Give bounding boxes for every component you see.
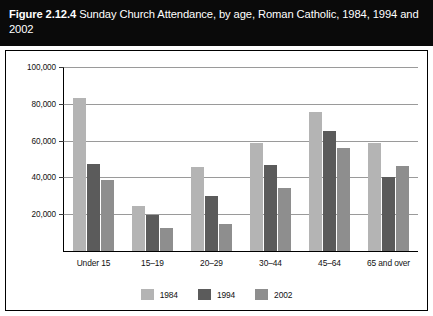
bar-1994-20–29 — [205, 196, 218, 251]
legend-label-1984: 1984 — [160, 290, 178, 300]
y-axis-label: 100,000 — [27, 63, 56, 72]
x-axis-label: 65 and over — [329, 258, 433, 268]
figure-container: Figure 2.12.4 Sunday Church Attendance, … — [0, 0, 433, 316]
bar-2002-15–19 — [160, 228, 173, 251]
y-axis-label: 20,000 — [32, 210, 56, 219]
legend-item-1984: 1984 — [141, 289, 178, 300]
bar-1984-45–64 — [309, 112, 322, 251]
bar-1984-20–29 — [191, 167, 204, 251]
legend-swatch-2002 — [255, 289, 268, 300]
bar-1984-65-and-over — [368, 143, 381, 251]
bar-1994-45–64 — [323, 131, 336, 251]
bar-2002-30–44 — [278, 188, 291, 251]
bar-1994-65-and-over — [382, 177, 395, 251]
bar-group: 65 and over — [359, 67, 418, 251]
legend-swatch-1994 — [198, 289, 211, 300]
bar-group: Under 15 — [64, 67, 123, 251]
figure-title: Figure 2.12.4 Sunday Church Attendance, … — [9, 7, 424, 36]
figure-title-bar: Figure 2.12.4 Sunday Church Attendance, … — [0, 0, 433, 46]
bar-1994-15–19 — [146, 215, 159, 251]
bar-1984-30–44 — [250, 143, 263, 251]
figure-number: Figure 2.12.4 — [9, 8, 76, 20]
y-axis-label: 40,000 — [32, 173, 56, 182]
bar-1994-30–44 — [264, 165, 277, 251]
legend-swatch-1984 — [141, 289, 154, 300]
bar-group: 15–19 — [123, 67, 182, 251]
bar-2002-under-15 — [101, 180, 114, 251]
chart-frame: 20,00040,00060,00080,000100,000 Under 15… — [5, 50, 428, 311]
bar-1984-15–19 — [132, 206, 145, 251]
y-axis-label: 80,000 — [32, 99, 56, 108]
bar-group: 45–64 — [300, 67, 359, 251]
bar-1984-under-15 — [73, 98, 86, 251]
bar-group: 30–44 — [241, 67, 300, 251]
plot-area: 20,00040,00060,00080,000100,000 Under 15… — [63, 67, 418, 252]
chart-legend: 198419942002 — [6, 289, 427, 300]
bar-2002-65-and-over — [396, 166, 409, 251]
legend-label-1994: 1994 — [217, 290, 235, 300]
bar-1994-under-15 — [87, 164, 100, 251]
y-axis-label: 60,000 — [32, 136, 56, 145]
legend-item-1994: 1994 — [198, 289, 235, 300]
bar-2002-20–29 — [219, 224, 232, 251]
bar-group: 20–29 — [182, 67, 241, 251]
bar-2002-45–64 — [337, 148, 350, 251]
legend-item-2002: 2002 — [255, 289, 292, 300]
legend-label-2002: 2002 — [274, 290, 292, 300]
